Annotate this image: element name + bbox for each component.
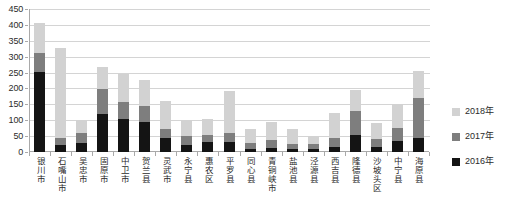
x-tick-mark [176,152,177,156]
x-tick-mark [324,152,325,156]
x-axis-label: 惠农区 [203,157,212,184]
y-tick-mark [25,120,28,121]
bar-segment-2018年 [34,23,45,52]
x-axis-label: 固原市 [98,157,107,184]
legend-item-2017[interactable]: 2017年 [452,131,518,142]
bar-group[interactable] [392,104,403,152]
x-tick-mark [50,152,51,156]
bar-segment-2017年 [160,129,171,137]
bar-segment-2017年 [118,102,129,119]
legend-label-2018: 2018年 [465,107,494,116]
legend-item-2016[interactable]: 2016年 [452,156,518,167]
bar-group[interactable] [118,74,129,152]
x-axis-label: 青铜峡市 [266,157,275,193]
bar-segment-2016年 [181,145,192,152]
bar-segment-2016年 [350,135,361,152]
x-axis-label: 石嘴山市 [56,157,65,193]
x-tick-mark [29,152,30,156]
bar-segment-2016年 [55,145,66,152]
bar-group[interactable] [413,71,424,152]
bar-segment-2017年 [139,106,150,121]
bar-group[interactable] [160,101,171,152]
x-axis-label: 西吉县 [329,157,338,184]
bar-segment-2017年 [392,128,403,141]
bar-group[interactable] [308,136,319,152]
bar-segment-2016年 [160,138,171,152]
x-axis-labels: 银川市石嘴山市吴忠市固原市中卫市贺兰县灵武市永宁县惠农区平罗县同心县青铜峡市盐池… [29,157,429,221]
x-tick-mark [366,152,367,156]
x-axis-label: 同心县 [245,157,254,184]
chart-container: 450 400 350 300 250 200 150 100 50 0 银川市… [0,0,522,221]
chart-legend: 2018年 2017年 2016年 [452,106,518,181]
x-tick-mark [261,152,262,156]
x-axis-label: 隆德县 [350,157,359,184]
bar-group[interactable] [371,123,382,152]
y-tick-label: 300 [9,53,23,62]
bar-group[interactable] [76,120,87,152]
x-axis-label: 银川市 [35,157,44,184]
x-axis-label: 中宁县 [392,157,401,184]
bar-segment-2016年 [76,143,87,152]
bar-segment-2017年 [224,133,235,142]
bar-segment-2018年 [224,91,235,133]
x-tick-mark [218,152,219,156]
bar-group[interactable] [350,90,361,152]
bar-segment-2016年 [392,141,403,152]
bar-segment-2018年 [55,48,66,138]
y-tick-mark [25,25,28,26]
x-axis-label: 中卫市 [119,157,128,184]
legend-swatch-2017 [452,133,460,141]
bar-segment-2018年 [97,67,108,90]
bar-group[interactable] [224,91,235,152]
bar-segment-2017年 [34,53,45,72]
y-tick-label: 0 [18,148,23,157]
x-tick-mark [282,152,283,156]
y-tick-mark [25,104,28,105]
bars-layer [29,9,429,152]
bar-segment-2018年 [266,122,277,141]
x-tick-mark [345,152,346,156]
bar-segment-2016年 [139,122,150,153]
bar-segment-2018年 [308,136,319,144]
bar-segment-2017年 [55,138,66,145]
y-tick-label: 200 [9,84,23,93]
x-axis-label: 海原县 [413,157,422,184]
x-tick-mark [92,152,93,156]
bar-segment-2018年 [139,80,150,107]
bar-segment-2017年 [350,111,361,135]
bar-segment-2017年 [202,135,213,142]
bar-segment-2018年 [287,129,298,144]
bar-group[interactable] [181,120,192,152]
legend-swatch-2016 [452,158,460,166]
bar-group[interactable] [34,23,45,152]
x-tick-mark [155,152,156,156]
bar-segment-2018年 [160,101,171,130]
x-tick-mark [113,152,114,156]
y-tick-label: 50 [13,132,23,141]
bar-segment-2018年 [202,119,213,136]
bar-segment-2018年 [371,123,382,139]
bar-segment-2016年 [224,142,235,152]
bar-segment-2017年 [181,136,192,145]
bar-group[interactable] [97,67,108,152]
x-tick-mark [429,152,430,156]
y-tick-mark [25,57,28,58]
legend-item-2018[interactable]: 2018年 [452,106,518,117]
bar-segment-2018年 [329,113,340,137]
bar-group[interactable] [287,129,298,152]
bar-group[interactable] [329,113,340,152]
bar-segment-2017年 [413,98,424,138]
y-tick-mark [25,88,28,89]
bar-segment-2017年 [97,89,108,113]
legend-swatch-2018 [452,108,460,116]
x-axis-label: 吴忠市 [77,157,86,184]
bar-segment-2018年 [392,104,403,127]
bar-group[interactable] [55,48,66,152]
x-axis-label: 永宁县 [182,157,191,184]
bar-group[interactable] [202,119,213,152]
bar-segment-2018年 [118,74,129,102]
bar-segment-2018年 [245,129,256,143]
bar-group[interactable] [139,80,150,152]
bar-group[interactable] [245,129,256,152]
bar-group[interactable] [266,122,277,152]
